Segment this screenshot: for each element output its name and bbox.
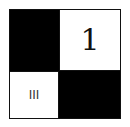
cell-bottom-left: III (10, 71, 59, 118)
two-by-two-grid: 1 III (9, 9, 121, 119)
cell-bottom-right (59, 71, 120, 118)
cell-label-roman-three: III (29, 89, 40, 101)
cell-top-right: 1 (59, 10, 120, 71)
cell-label-arabic-one: 1 (80, 25, 99, 55)
cell-top-left (10, 10, 59, 71)
